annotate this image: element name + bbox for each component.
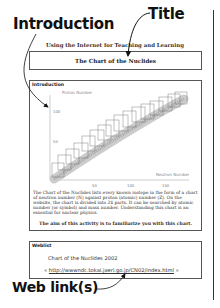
web-link-arrow-icon xyxy=(95,274,125,289)
title-arrow-icon xyxy=(128,13,150,56)
callout-arrows xyxy=(0,0,220,308)
introduction-arrow-icon xyxy=(24,34,48,107)
